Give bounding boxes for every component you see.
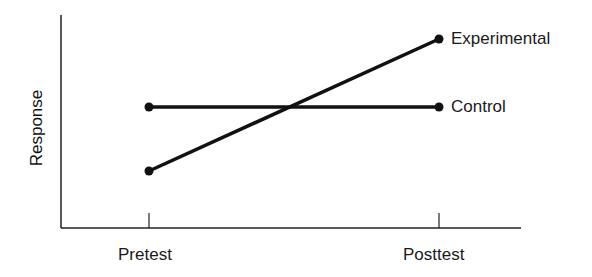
x-tick-label-pretest: Pretest: [118, 245, 172, 265]
x-tick-label-posttest: Posttest: [403, 245, 464, 265]
series-experimental: [145, 35, 444, 176]
y-axis-label: Response: [27, 78, 47, 178]
legend-experimental: Experimental: [451, 29, 550, 49]
legend-control: Control: [451, 97, 506, 117]
